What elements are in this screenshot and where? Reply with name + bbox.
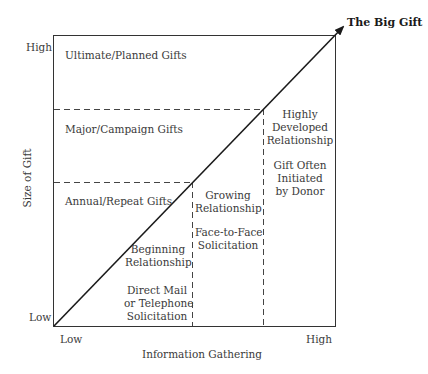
stage-growing-method: Face-to-Face Solicitation xyxy=(195,226,261,252)
gift-level-major: Major/Campaign Gifts xyxy=(65,123,183,136)
y-axis-high-label: High xyxy=(26,41,52,54)
x-axis-high-label: High xyxy=(306,333,332,346)
x-axis-low-label: Low xyxy=(60,333,82,346)
stage-developed-method: Gift Often Initiated by Donor xyxy=(264,159,336,198)
gift-level-ultimate: Ultimate/Planned Gifts xyxy=(65,49,187,62)
x-axis-title: Information Gathering xyxy=(142,348,262,361)
big-gift-label: The Big Gift xyxy=(347,16,422,29)
gift-level-annual: Annual/Repeat Gifts xyxy=(65,195,172,208)
y-axis-low-label: Low xyxy=(29,311,51,324)
stage-beginning-relationship: Beginning Relationship xyxy=(125,243,191,269)
stage-growing-relationship: Growing Relationship xyxy=(195,189,261,215)
y-axis-title: Size of Gift xyxy=(21,143,33,213)
stage-beginning-method: Direct Mail or Telephone Solicitation xyxy=(124,284,190,323)
stage-developed-relationship: Highly Developed Relationship xyxy=(264,108,336,147)
